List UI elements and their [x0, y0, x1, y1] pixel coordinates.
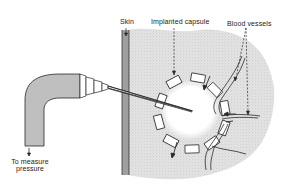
label-pressure: pressure	[10, 165, 50, 173]
pressure-tube	[25, 74, 108, 146]
label-blood-vessels: Blood vessels	[227, 20, 272, 28]
label-skin: Skin	[120, 18, 134, 26]
label-implanted-capsule: Implanted capsule	[151, 18, 210, 26]
skin-layer	[122, 30, 129, 175]
diagram: Skin Implanted capsule Blood vessels To …	[0, 0, 283, 190]
measure-arrow	[28, 148, 31, 156]
